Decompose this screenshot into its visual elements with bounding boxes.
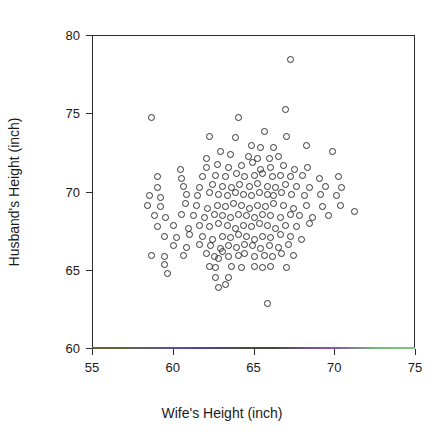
scatter-point xyxy=(264,300,271,307)
plot-area xyxy=(92,35,415,348)
scatter-point xyxy=(206,189,213,196)
scatter-point xyxy=(266,242,273,249)
scatter-point xyxy=(293,183,300,190)
scatter-point xyxy=(232,189,239,196)
scatter-point xyxy=(170,222,177,229)
scatter-point xyxy=(173,234,180,241)
scatter-point xyxy=(282,106,289,113)
scatter-point xyxy=(282,222,289,229)
x-axis-tick-label: 55 xyxy=(85,360,99,375)
scatter-point xyxy=(161,253,168,260)
scatter-point xyxy=(249,242,256,249)
scatter-point xyxy=(207,242,214,249)
scatter-point xyxy=(259,211,266,218)
scatter-point xyxy=(301,192,308,199)
scatter-point xyxy=(196,241,203,248)
scatter-point xyxy=(322,183,329,190)
scatter-point xyxy=(299,172,306,179)
scatter-point xyxy=(148,114,155,121)
y-axis-tick-label: 60 xyxy=(66,341,80,356)
scatter-point xyxy=(228,263,235,270)
scatter-point xyxy=(178,211,185,218)
x-axis-tick xyxy=(173,349,174,355)
scatter-point xyxy=(177,166,184,173)
scatter-point xyxy=(178,175,185,182)
scatter-point xyxy=(199,233,206,240)
scatter-point xyxy=(219,183,226,190)
scatter-point xyxy=(275,153,282,160)
scatter-point xyxy=(269,253,276,260)
y-axis-tick-label: 75 xyxy=(66,106,80,121)
y-axis-tick-label: 70 xyxy=(66,184,80,199)
scatter-point xyxy=(180,252,187,259)
scatter-point xyxy=(182,200,189,207)
scatter-point xyxy=(224,192,231,199)
scatter-point xyxy=(287,173,294,180)
scatter-point xyxy=(161,233,168,240)
x-axis-tick-label: 75 xyxy=(408,360,422,375)
scatter-point xyxy=(230,200,237,207)
scatter-point xyxy=(287,211,294,218)
scatter-point xyxy=(180,183,187,190)
scatter-point xyxy=(267,164,274,171)
scatter-point xyxy=(246,183,253,190)
scatter-point xyxy=(333,192,340,199)
scatter-point xyxy=(243,212,250,219)
scatter-point xyxy=(267,234,274,241)
scatter-point xyxy=(293,223,300,230)
scatter-point xyxy=(154,173,161,180)
scatter-point xyxy=(287,56,294,63)
scatter-point xyxy=(162,214,169,221)
y-axis-tick xyxy=(86,35,92,36)
scatter-point xyxy=(282,181,289,188)
scatter-point xyxy=(280,162,287,169)
scatter-point xyxy=(261,252,268,259)
scatter-point xyxy=(280,202,287,209)
scatter-point xyxy=(204,205,211,212)
scatter-point xyxy=(193,202,200,209)
scatter-point xyxy=(233,170,240,177)
scatter-point xyxy=(325,212,332,219)
scatter-point xyxy=(190,212,197,219)
scatter-point xyxy=(285,241,292,248)
scatter-point xyxy=(262,203,269,210)
scatter-point xyxy=(183,244,190,251)
scatter-point xyxy=(212,172,219,179)
scatter-point xyxy=(254,202,261,209)
scatter-point xyxy=(203,164,210,171)
scatter-point xyxy=(270,144,277,151)
scatter-point xyxy=(222,203,229,210)
scatter-point xyxy=(351,208,358,215)
scatter-point xyxy=(238,202,245,209)
scatter-point xyxy=(251,253,258,260)
scatter-point xyxy=(227,234,234,241)
scatter-point xyxy=(278,250,285,257)
y-axis-tick xyxy=(86,113,92,114)
scatter-point xyxy=(248,192,255,199)
scatter-point xyxy=(235,231,242,238)
scatter-point xyxy=(219,212,226,219)
scatter-point xyxy=(257,144,264,151)
scatter-point xyxy=(227,151,234,158)
y-axis-line xyxy=(92,35,93,348)
scatter-point xyxy=(148,252,155,259)
y-axis-tick xyxy=(86,348,92,349)
scatter-point xyxy=(146,192,153,199)
y-axis-tick xyxy=(86,192,92,193)
scatter-point xyxy=(164,270,171,277)
scatter-point xyxy=(214,202,221,209)
scatter-point xyxy=(259,170,266,177)
scatter-point xyxy=(304,164,311,171)
scatter-point xyxy=(206,223,213,230)
scatter-point xyxy=(183,191,190,198)
scatter-point xyxy=(194,192,201,199)
scatter-point xyxy=(227,214,234,221)
scatter-point xyxy=(225,242,232,249)
x-axis-tick-label: 70 xyxy=(327,360,341,375)
scatter-point xyxy=(266,155,273,162)
scatter-point xyxy=(157,194,164,201)
scatter-point xyxy=(303,142,310,149)
scatter-point xyxy=(283,264,290,271)
scatter-point xyxy=(201,214,208,221)
scatter-point xyxy=(248,142,255,149)
